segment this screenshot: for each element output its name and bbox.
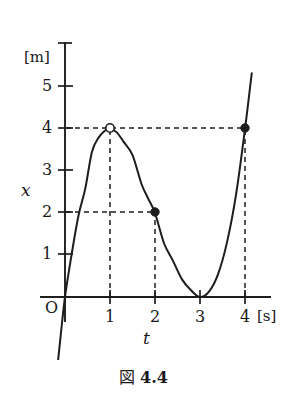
x-tick-label-1: 1 <box>105 309 115 325</box>
y-axis-variable-label: x <box>21 182 31 199</box>
y-tick-label-1: 1 <box>42 246 52 262</box>
figure-caption-prefix: 図 <box>119 368 135 387</box>
y-tick-label-4: 4 <box>42 120 52 136</box>
y-tick-label-5: 5 <box>42 78 52 94</box>
figure-caption-number: 4.4 <box>140 368 168 387</box>
x-tick-label-2: 2 <box>150 309 160 325</box>
x-axis-variable-label: t <box>143 330 150 347</box>
figure-container: [m] 5 4 3 2 1 x O 1 2 3 4 [s] t 図4.4 <box>0 0 287 395</box>
y-tick-label-2: 2 <box>42 204 52 220</box>
x-tick-label-4: 4 <box>240 309 250 325</box>
figure-caption: 図4.4 <box>0 364 287 388</box>
x-axis-unit-label: [s] <box>257 309 276 324</box>
x-tick-label-3: 3 <box>195 309 205 325</box>
y-axis-unit-label: [m] <box>24 50 50 65</box>
marker-peak-t1 <box>106 124 114 132</box>
origin-label: O <box>45 300 58 316</box>
y-tick-label-3: 3 <box>42 162 52 178</box>
marker-point-t4 <box>241 124 249 132</box>
marker-point-t2 <box>151 208 159 216</box>
